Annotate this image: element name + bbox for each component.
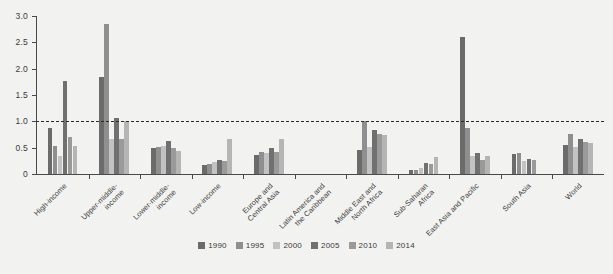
bar (532, 160, 537, 174)
legend-item[interactable]: 1990 (198, 241, 227, 250)
legend-swatch-icon (386, 242, 393, 249)
bar (119, 139, 124, 174)
bar (48, 128, 53, 174)
legend-label: 2005 (321, 241, 340, 250)
bar (583, 142, 588, 174)
bar (207, 164, 212, 174)
bar (367, 147, 372, 174)
x-axis-tick (295, 175, 296, 179)
bar (465, 128, 470, 174)
legend-item[interactable]: 1995 (236, 241, 265, 250)
x-axis-tick (449, 175, 450, 179)
legend-label: 2010 (359, 241, 378, 250)
bar (166, 141, 171, 174)
bar (254, 155, 259, 174)
bar (434, 157, 439, 174)
bar (475, 153, 480, 174)
bar (424, 163, 429, 174)
bar (171, 148, 176, 174)
plot-area: 00.51.01.52.02.53.0 High-incomeUpper-mid… (0, 0, 613, 274)
legend-swatch-icon (198, 242, 205, 249)
bar (104, 24, 109, 174)
legend-swatch-icon (273, 242, 280, 249)
bar (357, 150, 362, 174)
bar (202, 165, 207, 174)
chart-legend: 199019952000200520102014 (0, 241, 613, 250)
bar (227, 139, 232, 174)
bar (176, 151, 181, 174)
x-axis-tick (192, 175, 193, 179)
x-axis-tick (243, 175, 244, 179)
bar (114, 118, 119, 174)
bar (480, 160, 485, 174)
legend-label: 1995 (246, 241, 265, 250)
bar (73, 146, 78, 174)
x-axis-tick (89, 175, 90, 179)
legend-swatch-icon (236, 242, 243, 249)
chart-root: 00.51.01.52.02.53.0 High-incomeUpper-mid… (0, 0, 613, 274)
bar (429, 164, 434, 174)
bar (372, 130, 377, 174)
reference-line-1 (36, 121, 604, 122)
bar (269, 148, 274, 174)
bar (279, 139, 284, 174)
x-axis-tick (398, 175, 399, 179)
legend-item[interactable]: 2010 (349, 241, 378, 250)
legend-item[interactable]: 2014 (386, 241, 415, 250)
bar (517, 153, 522, 174)
bar (63, 81, 68, 174)
legend-label: 2000 (283, 241, 302, 250)
bar (382, 135, 387, 174)
bar (259, 152, 264, 174)
bar (161, 146, 166, 174)
legend-label: 2014 (396, 241, 415, 250)
bar (470, 156, 475, 174)
bar (362, 121, 367, 174)
x-axis-tick (140, 175, 141, 179)
bar (485, 156, 490, 174)
bar (99, 77, 104, 174)
bar (274, 152, 279, 174)
legend-swatch-icon (349, 242, 356, 249)
bar (512, 154, 517, 174)
bar (460, 37, 465, 174)
bar (212, 162, 217, 174)
x-axis-tick (552, 175, 553, 179)
bar-series-layer (0, 0, 613, 274)
bar (264, 153, 269, 174)
bar (156, 147, 161, 174)
x-axis-tick (501, 175, 502, 179)
bar (68, 137, 73, 174)
bar (573, 147, 578, 174)
bar (151, 148, 156, 174)
legend-item[interactable]: 2005 (311, 241, 340, 250)
bar (578, 139, 583, 174)
bar (58, 156, 63, 174)
bar (568, 134, 573, 174)
bar (53, 146, 58, 174)
legend-swatch-icon (311, 242, 318, 249)
x-axis-tick (346, 175, 347, 179)
bar (377, 134, 382, 174)
bar (588, 143, 593, 174)
bar (124, 121, 129, 174)
bar (563, 145, 568, 174)
bar (527, 159, 532, 174)
bar (222, 161, 227, 174)
bar (522, 161, 527, 174)
bar (109, 139, 114, 174)
bar (217, 160, 222, 174)
legend-item[interactable]: 2000 (273, 241, 302, 250)
x-axis-line (36, 174, 604, 175)
legend-label: 1990 (208, 241, 227, 250)
